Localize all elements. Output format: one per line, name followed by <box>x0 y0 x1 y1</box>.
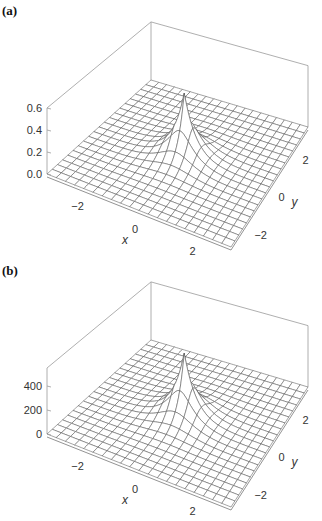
surface-mesh <box>47 340 308 507</box>
x-axis-label: x <box>121 233 129 247</box>
z-tick-label: 0.6 <box>27 102 42 114</box>
y-tick-label: 2 <box>303 414 309 426</box>
x-axis-label: x <box>121 493 129 507</box>
x-tick-label: −2 <box>71 200 84 212</box>
y-tick-label: 2 <box>303 154 309 166</box>
x-tick-label: −2 <box>71 460 84 472</box>
surface-plot-a: 0.00.20.40.6−202x−202y <box>0 0 322 260</box>
z-tick-label: 0 <box>36 428 42 440</box>
z-tick-label: 0.0 <box>27 168 42 180</box>
z-tick-label: 0.2 <box>27 146 42 158</box>
y-axis-label: y <box>291 455 299 469</box>
x-tick-label: 0 <box>132 483 138 495</box>
x-tick-label: 2 <box>189 245 195 257</box>
z-tick-label: 200 <box>24 404 42 416</box>
y-tick-label: 0 <box>279 191 285 203</box>
surface-mesh <box>47 80 308 247</box>
panel-label-a: (a) <box>2 3 17 19</box>
panel-label-b: (b) <box>2 263 18 279</box>
z-tick-label: 400 <box>24 380 42 392</box>
y-tick-label: 0 <box>279 451 285 463</box>
y-tick-label: −2 <box>254 489 267 501</box>
panel-b: 0200400−202x−202y (b) <box>0 260 322 520</box>
z-tick-label: 0.4 <box>27 124 42 136</box>
x-tick-label: 0 <box>132 223 138 235</box>
y-axis-label: y <box>291 195 299 209</box>
surface-plot-b: 0200400−202x−202y <box>0 260 322 521</box>
y-tick-label: −2 <box>254 229 267 241</box>
x-tick-label: 2 <box>189 505 195 517</box>
panel-a: 0.00.20.40.6−202x−202y (a) <box>0 0 322 260</box>
